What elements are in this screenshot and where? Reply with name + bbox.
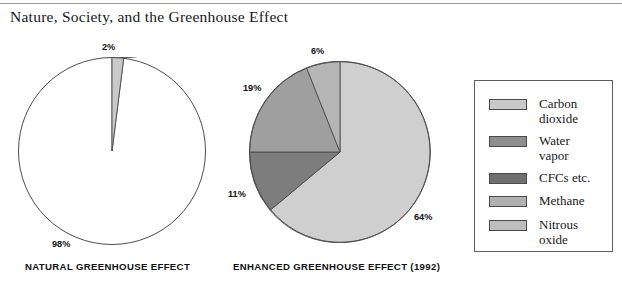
legend-swatch-carbon-dioxide-icon	[489, 99, 527, 110]
pie-natural-label-water-vapor: 98%	[52, 239, 70, 249]
legend-label-water-vapor: Water vapor	[539, 134, 570, 163]
pie-enhanced-label-methane: 6%	[311, 46, 324, 56]
pie-enhanced-caption: ENHANCED GREENHOUSE EFFECT (1992)	[233, 261, 440, 272]
legend-label-cfcs: CFCs etc.	[539, 171, 590, 186]
legend-swatch-water-vapor-icon	[489, 136, 527, 147]
pie-enhanced-label-water-vapor: 19%	[243, 83, 261, 93]
pie-natural-caption: NATURAL GREENHOUSE EFFECT	[25, 261, 190, 272]
greenhouse-effect-figure: Nature, Society, and the Greenhouse Effe…	[0, 0, 622, 283]
legend-label-methane: Methane	[539, 194, 584, 209]
pie-enhanced-label-carbon-dioxide: 64%	[414, 212, 432, 222]
pie-chart-natural	[18, 57, 206, 245]
legend-item-carbon-dioxide: Carbon dioxide	[489, 97, 578, 126]
pie-enhanced-label-cfcs: 11%	[228, 189, 246, 199]
pie-natural-svg	[18, 57, 206, 245]
legend-item-water-vapor: Water vapor	[489, 134, 570, 163]
legend-swatch-cfcs-icon	[489, 173, 527, 184]
legend-swatch-nitrous-oxide-icon	[489, 220, 527, 231]
pie-natural-slice-carbon-dioxide	[112, 57, 124, 151]
pie-enhanced-svg	[249, 61, 431, 243]
page-title: Nature, Society, and the Greenhouse Effe…	[10, 8, 288, 26]
pie-natural-label-carbon-dioxide: 2%	[102, 42, 115, 52]
legend: Carbon dioxide Water vapor CFCs etc. Met…	[474, 80, 613, 252]
legend-label-nitrous-oxide: Nitrous oxide	[539, 218, 578, 247]
pie-chart-enhanced	[249, 61, 431, 243]
legend-swatch-methane-icon	[489, 196, 527, 207]
legend-label-carbon-dioxide: Carbon dioxide	[539, 97, 578, 126]
legend-item-nitrous-oxide: Nitrous oxide	[489, 218, 578, 247]
top-divider-rule	[0, 3, 622, 4]
legend-item-cfcs: CFCs etc.	[489, 171, 590, 186]
legend-item-methane: Methane	[489, 194, 584, 209]
